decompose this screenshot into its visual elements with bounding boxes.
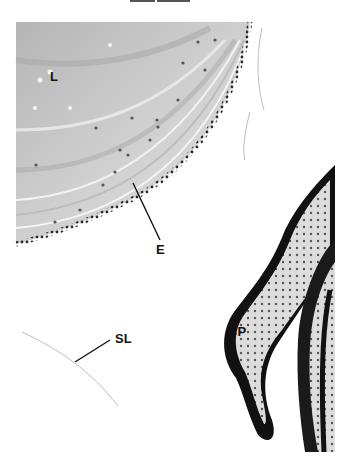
- lens: [16, 22, 250, 244]
- ciliary-process: [224, 165, 335, 452]
- label-suspensory-ligament: SL: [115, 332, 132, 345]
- label-epithelium: E: [156, 243, 165, 256]
- label-lens: L: [50, 70, 58, 83]
- label-ciliary-process: CP: [228, 325, 246, 338]
- micrograph: L E CP SL: [0, 0, 350, 467]
